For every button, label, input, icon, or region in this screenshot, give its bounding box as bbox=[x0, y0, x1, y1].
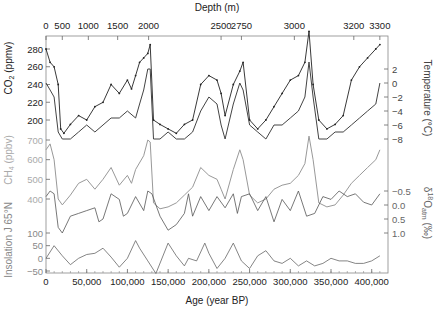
insolation-tick-label: 50 bbox=[32, 240, 43, 251]
ch4-axis-title: CH4 (ppbv) bbox=[3, 135, 15, 184]
top-tick-label: 1000 bbox=[78, 20, 99, 31]
bottom-tick-label: 200,000 bbox=[192, 276, 226, 287]
plot-frame bbox=[46, 36, 388, 273]
d18o-tick-label: 0.0 bbox=[392, 200, 405, 211]
ch4-tick-label: 500 bbox=[27, 174, 43, 185]
top-tick-label: 1500 bbox=[107, 20, 128, 31]
co2-tick-label: 240 bbox=[27, 79, 43, 90]
bottom-axis-age: 050,000100,000150,000200,000250,000300,0… bbox=[43, 269, 389, 287]
top-tick-label: 3300 bbox=[369, 20, 390, 31]
bottom-tick-label: 300,000 bbox=[273, 276, 307, 287]
series-d18oatm bbox=[46, 191, 380, 233]
left-axes: 280260240220200700600500400100500−50 bbox=[27, 44, 50, 277]
d18o-tick-label: −0.5 bbox=[392, 186, 411, 197]
top-tick-label: 0 bbox=[43, 20, 48, 31]
co2-tick-label: 220 bbox=[27, 97, 43, 108]
insolation-tick-label: 100 bbox=[27, 228, 43, 239]
ch4-tick-label: 700 bbox=[27, 135, 43, 146]
bottom-tick-label: 150,000 bbox=[151, 276, 185, 287]
temperature-tick-label: −4 bbox=[392, 106, 403, 117]
d18o-axis-title: δ18Oatm (‰) bbox=[421, 187, 434, 239]
insolation-axis-title: Insolation J 65°N bbox=[3, 202, 14, 278]
top-axis-title: Depth (m) bbox=[195, 2, 239, 13]
bottom-tick-label: 250,000 bbox=[232, 276, 266, 287]
data-series bbox=[45, 30, 381, 273]
bottom-axis-title: Age (year BP) bbox=[186, 295, 249, 306]
top-tick-label: 2750 bbox=[231, 20, 252, 31]
top-axis-depth: 050010001500200025002750300032003300 bbox=[43, 20, 390, 40]
temperature-tick-label: −8 bbox=[392, 134, 403, 145]
co2-tick-label: 260 bbox=[27, 61, 43, 72]
d18o-tick-label: 1.0 bbox=[392, 228, 405, 239]
ch4-tick-label: 400 bbox=[27, 194, 43, 205]
top-tick-label: 3000 bbox=[284, 20, 305, 31]
series-co2 bbox=[46, 31, 380, 133]
top-tick-label: 2500 bbox=[211, 20, 232, 31]
plot-border bbox=[46, 36, 388, 273]
series-ch4 bbox=[46, 136, 380, 209]
insolation-tick-label: −50 bbox=[27, 266, 43, 277]
temperature-tick-label: 0 bbox=[392, 78, 397, 89]
co2-tick-label: 280 bbox=[27, 44, 43, 55]
bottom-tick-label: 400,000 bbox=[355, 276, 389, 287]
co2-axis-title: CO2 (ppmv) bbox=[3, 42, 15, 95]
bottom-tick-label: 100,000 bbox=[110, 276, 144, 287]
temperature-tick-label: 2 bbox=[392, 64, 397, 75]
chart-svg: 050010001500200025002750300032003300 Dep… bbox=[0, 0, 434, 312]
temperature-axis-title: Temperature (°C) bbox=[422, 60, 433, 137]
series-insolation-j-65-n bbox=[46, 241, 380, 274]
temperature-tick-label: −2 bbox=[392, 92, 403, 103]
top-tick-label: 500 bbox=[54, 20, 70, 31]
insolation-tick-label: 0 bbox=[38, 253, 43, 264]
co2-tick-label: 200 bbox=[27, 115, 43, 126]
temperature-tick-label: −6 bbox=[392, 120, 403, 131]
bottom-tick-label: 0 bbox=[43, 276, 48, 287]
ice-core-chart: 050010001500200025002750300032003300 Dep… bbox=[0, 0, 434, 312]
top-tick-label: 2000 bbox=[138, 20, 159, 31]
ch4-tick-label: 600 bbox=[27, 154, 43, 165]
d18o-tick-label: 0.5 bbox=[392, 214, 405, 225]
top-tick-label: 3200 bbox=[343, 20, 364, 31]
bottom-tick-label: 350,000 bbox=[314, 276, 348, 287]
bottom-tick-label: 50,000 bbox=[72, 276, 101, 287]
